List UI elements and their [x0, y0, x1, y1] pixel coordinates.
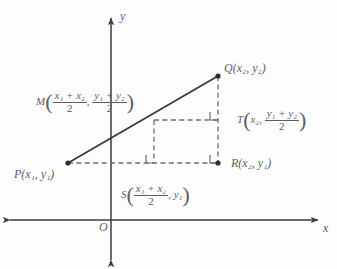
- point-label-Q-coords: (x₂, y₂): [233, 61, 266, 75]
- foot-x-fraction: x₁ + x₂2: [134, 183, 168, 207]
- point-label-S: S(x₁ + x₂2, y₁): [121, 183, 190, 207]
- right-angle-mark-S: [146, 155, 154, 163]
- point-label-M: M(x₁ + x₂2, y₁ + y₂2): [36, 90, 134, 114]
- point-label-Q-name: Q: [224, 61, 233, 75]
- x-axis-label: x: [323, 222, 328, 234]
- paren-close-icon: ): [299, 114, 306, 126]
- foot-x-numerator: x₁ + x₂: [134, 183, 168, 196]
- foot-x-denominator: 2: [134, 196, 168, 208]
- diagram-vector-layer: [0, 0, 337, 269]
- paren-open-icon: (: [127, 189, 134, 201]
- midpoint-y-denominator: 2: [92, 103, 126, 115]
- midpoint-y-numerator: y₁ + y₂: [92, 90, 126, 103]
- point-label-Q: Q(x₂, y₂): [224, 62, 266, 74]
- paren-open-icon: (: [45, 96, 52, 108]
- diagram-canvas: y x O P(x₁, y₁) Q(x₂, y₂) R(x₂, y₁) M(x₁…: [0, 0, 337, 269]
- point-label-P: P(x₁, y₁): [14, 168, 54, 180]
- point-label-R: R(x₂, y₁): [231, 157, 271, 169]
- side-y-denominator: 2: [265, 121, 299, 133]
- point-label-M-name: M: [36, 95, 45, 107]
- midpoint-x-numerator: x₁ + x₂: [53, 90, 87, 103]
- point-label-P-coords: (x₁, y₁): [21, 167, 54, 181]
- origin-label: O: [99, 221, 108, 233]
- side-y-fraction: y₁ + y₂2: [265, 108, 299, 132]
- midpoint-x-fraction: x₁ + x₂2: [53, 90, 87, 114]
- midpoint-x-denominator: 2: [53, 103, 87, 115]
- point-label-R-coords: (x₂, y₁): [238, 156, 271, 170]
- right-angle-mark-T: [210, 112, 218, 120]
- foot-y-value: y₁: [174, 188, 183, 200]
- point-P-dot: [65, 160, 70, 165]
- y-axis-label: y: [120, 10, 125, 22]
- midpoint-y-fraction: y₁ + y₂2: [92, 90, 126, 114]
- side-y-numerator: y₁ + y₂: [265, 108, 299, 121]
- point-label-T: T(x₂, y₁ + y₂2): [237, 108, 306, 132]
- paren-close-icon: ): [182, 189, 189, 201]
- side-x-value: x₂: [250, 113, 259, 125]
- point-Q-dot: [215, 73, 220, 78]
- paren-close-icon: ): [127, 96, 134, 108]
- point-R-dot: [215, 160, 220, 165]
